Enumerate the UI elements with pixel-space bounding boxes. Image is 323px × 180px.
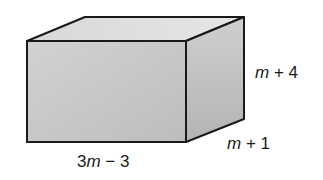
depth-label: m + 1 <box>227 135 270 152</box>
front-face <box>27 41 186 142</box>
depth-var: m <box>227 134 241 153</box>
height-var: m <box>255 63 269 82</box>
length-var: m <box>86 152 100 171</box>
length-rest: − 3 <box>101 152 130 171</box>
prism-figure <box>0 0 323 180</box>
length-label: 3m − 3 <box>77 153 129 170</box>
height-label: m + 4 <box>255 64 298 81</box>
depth-rest: + 1 <box>241 134 270 153</box>
height-rest: + 4 <box>269 63 298 82</box>
